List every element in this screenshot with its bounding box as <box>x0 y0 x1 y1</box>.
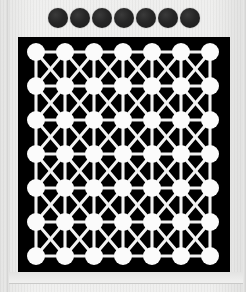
lattice-node <box>172 111 190 129</box>
lattice-node <box>85 77 103 95</box>
lattice-node <box>143 43 161 61</box>
lattice-node <box>56 145 74 163</box>
lattice-node <box>114 43 132 61</box>
lattice-node <box>172 179 190 197</box>
lattice-node <box>85 43 103 61</box>
legend-dot-6 <box>158 8 178 28</box>
lattice-node <box>114 179 132 197</box>
lattice-node <box>85 247 103 265</box>
lattice-node <box>201 43 219 61</box>
lattice-node <box>114 145 132 163</box>
lattice-node <box>143 247 161 265</box>
lattice-node <box>27 145 45 163</box>
lattice-node <box>143 179 161 197</box>
lattice-node <box>56 111 74 129</box>
lattice-node <box>56 43 74 61</box>
page-rule-bottom <box>9 283 243 284</box>
lattice-node <box>201 77 219 95</box>
legend-dot-7 <box>180 8 200 28</box>
lattice-node <box>172 43 190 61</box>
lattice-node <box>143 145 161 163</box>
lattice-node <box>114 213 132 231</box>
lattice-node <box>27 111 45 129</box>
lattice-node <box>56 213 74 231</box>
lattice-node <box>172 145 190 163</box>
page-edge-left <box>7 0 9 292</box>
lattice-node <box>85 145 103 163</box>
lattice-node <box>27 179 45 197</box>
lattice-node <box>201 247 219 265</box>
lattice-node <box>27 213 45 231</box>
legend-dot-5 <box>136 8 156 28</box>
lattice-node <box>114 111 132 129</box>
lattice-node <box>27 43 45 61</box>
figure-root <box>0 0 246 292</box>
lattice-node <box>85 213 103 231</box>
lattice-node <box>172 247 190 265</box>
page-band-bottom <box>9 272 243 283</box>
lattice-graph <box>18 37 230 272</box>
legend-dot-2 <box>70 8 90 28</box>
legend-dot-row <box>48 8 200 28</box>
lattice-node <box>27 247 45 265</box>
lattice-node <box>143 77 161 95</box>
lattice-node <box>143 213 161 231</box>
lattice-node <box>201 179 219 197</box>
page-edge-right <box>243 0 246 292</box>
lattice-node <box>201 145 219 163</box>
lattice-node <box>85 111 103 129</box>
lattice-node <box>85 179 103 197</box>
lattice-node <box>172 213 190 231</box>
legend-dot-1 <box>48 8 68 28</box>
lattice-node <box>56 247 74 265</box>
legend-dot-3 <box>92 8 112 28</box>
legend-dot-4 <box>114 8 134 28</box>
lattice-node <box>201 213 219 231</box>
lattice-node <box>143 111 161 129</box>
lattice-node <box>114 247 132 265</box>
lattice-node <box>56 179 74 197</box>
lattice-node <box>27 77 45 95</box>
lattice-node <box>201 111 219 129</box>
lattice-panel <box>18 37 230 272</box>
lattice-node <box>172 77 190 95</box>
lattice-node <box>114 77 132 95</box>
lattice-node <box>56 77 74 95</box>
